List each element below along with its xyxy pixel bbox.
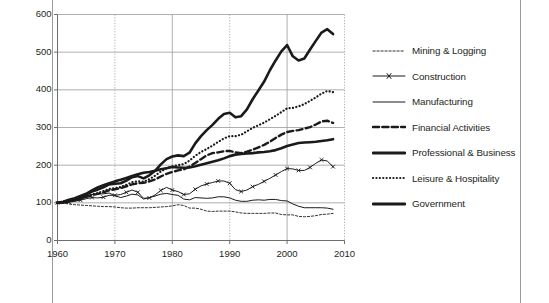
legend-item[interactable]: Financial Activities (372, 115, 547, 141)
y-tick-label: 100 (11, 196, 52, 207)
series-lines (56, 29, 335, 217)
y-tick-label: 400 (11, 83, 52, 94)
legend-item[interactable]: Construction (372, 64, 547, 90)
thin-marker-x-line-icon (372, 70, 406, 82)
y-tick-label: 600 (11, 8, 52, 19)
series-line (58, 203, 334, 217)
y-tick-label: 500 (11, 46, 52, 57)
thin-solid-line-icon (372, 96, 406, 108)
x-tick-label: 1970 (95, 248, 135, 259)
x-tick-label: 1980 (152, 248, 192, 259)
legend-item[interactable]: Mining & Logging (372, 38, 547, 64)
legend-item-label: Professional & Business (412, 147, 515, 158)
y-tick-label: 300 (11, 121, 52, 132)
legend-item-label: Government (412, 198, 465, 209)
legend-item-label: Financial Activities (412, 122, 490, 133)
legend-item[interactable]: Leisure & Hospitality (372, 166, 547, 192)
dotted-line-icon (372, 172, 406, 184)
legend-item[interactable]: Professional & Business (372, 140, 547, 166)
legend-item[interactable]: Manufacturing (372, 89, 547, 115)
legend-item-label: Manufacturing (412, 96, 473, 107)
chart-legend: Mining & LoggingConstructionManufacturin… (372, 38, 547, 217)
x-tick-label: 2010 (325, 248, 365, 259)
bold-solid-line-icon (372, 147, 406, 159)
legend-item-label: Mining & Logging (412, 45, 486, 56)
series-line (58, 193, 334, 209)
x-tick-label: 1960 (38, 248, 78, 259)
fine-dashed-line-icon (372, 45, 406, 57)
x-tick-label: 1990 (210, 248, 250, 259)
y-tick-label: 0 (11, 234, 52, 245)
chart-screenshot: 0100200300400500600 19601970198019902000… (0, 0, 549, 303)
bold-dashed-line-icon (372, 121, 406, 133)
legend-item[interactable]: Government (372, 191, 547, 217)
y-tick-label: 200 (11, 159, 52, 170)
bold-solid-line-icon (372, 198, 406, 210)
x-tick-label: 2000 (267, 248, 307, 259)
legend-item-label: Construction (412, 71, 466, 82)
legend-item-label: Leisure & Hospitality (412, 173, 499, 184)
series-line (58, 29, 334, 203)
